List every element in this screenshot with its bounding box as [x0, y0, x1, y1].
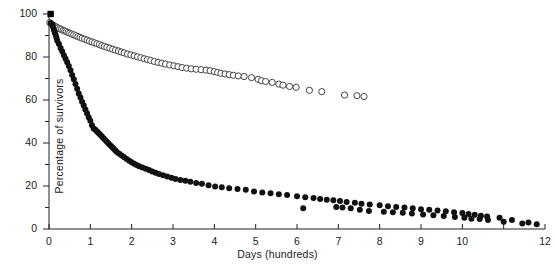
data-point-filled: [300, 205, 306, 211]
data-point-open: [269, 79, 275, 85]
data-point-filled: [441, 213, 447, 219]
data-point-filled: [348, 205, 354, 211]
data-point-filled: [259, 189, 265, 195]
data-point-filled: [302, 194, 308, 200]
x-tick-label: 2: [122, 235, 142, 247]
y-tick-label: 0: [11, 222, 37, 234]
data-point-filled: [358, 201, 364, 207]
data-point-filled: [212, 183, 218, 189]
data-point-filled: [251, 189, 257, 195]
data-point-filled: [435, 208, 441, 214]
data-point-filled: [330, 197, 336, 203]
data-point-filled: [393, 204, 399, 210]
data-point-filled: [352, 200, 358, 206]
data-point-open: [306, 87, 312, 93]
data-point-filled: [317, 196, 323, 202]
data-point-open: [293, 84, 299, 90]
data-point-open: [354, 93, 360, 99]
data-point-filled: [400, 210, 406, 216]
data-point-filled: [461, 215, 467, 221]
data-point-filled: [333, 204, 339, 210]
x-tick-label: 5: [246, 235, 266, 247]
data-point-filled: [477, 216, 483, 222]
x-tick-label: 4: [204, 235, 224, 247]
x-tick-label: 6: [287, 235, 307, 247]
data-point-open: [248, 75, 254, 81]
data-point-filled: [401, 205, 407, 211]
data-point-filled: [534, 221, 540, 227]
data-point-filled: [381, 209, 387, 215]
data-point-filled: [226, 185, 232, 191]
data-point-filled: [390, 209, 396, 215]
data-point-filled: [324, 197, 330, 203]
data-point-open: [341, 92, 347, 98]
data-point-filled: [219, 184, 225, 190]
data-point-filled: [468, 216, 474, 222]
data-point-filled: [206, 182, 212, 188]
y-tick-label: 40: [11, 136, 37, 148]
data-point-open: [280, 82, 286, 88]
data-point-filled: [377, 202, 383, 208]
data-point-filled: [268, 190, 274, 196]
data-point-filled: [426, 207, 432, 213]
y-tick-label: 20: [11, 179, 37, 191]
data-point-filled: [284, 192, 290, 198]
data-point-filled: [525, 220, 531, 226]
x-tick-label: 0: [39, 235, 59, 247]
data-point-filled: [418, 206, 424, 212]
data-point-filled: [367, 201, 373, 207]
data-point-open: [235, 73, 241, 79]
x-tick-label: 10: [452, 235, 472, 247]
data-point-filled: [501, 219, 507, 225]
data-point-filled: [339, 205, 345, 211]
data-point-filled: [276, 191, 282, 197]
data-point-filled: [337, 198, 343, 204]
data-point-filled: [234, 186, 240, 192]
data-point-filled: [294, 193, 300, 199]
data-point-filled: [357, 207, 363, 213]
data-point-filled: [452, 214, 458, 220]
x-tick-label: 1: [80, 235, 100, 247]
survival-curve-figure: Percentage of survivors Days (hundreds) …: [0, 0, 555, 271]
data-point-filled: [409, 211, 415, 217]
plot-area: [0, 0, 555, 271]
data-point-open: [319, 89, 325, 95]
data-point-filled: [519, 220, 525, 226]
data-point-filled: [410, 205, 416, 211]
x-tick-label: 8: [370, 235, 390, 247]
x-tick-label: 12: [535, 235, 555, 247]
data-point-filled: [311, 195, 317, 201]
y-tick-label: 100: [11, 7, 37, 19]
data-point-open: [361, 93, 367, 99]
data-point-filled: [187, 179, 193, 185]
data-point-filled: [344, 199, 350, 205]
x-tick-label: 9: [411, 235, 431, 247]
data-point-square: [47, 11, 53, 17]
x-tick-label: 3: [163, 235, 183, 247]
data-point-open: [241, 73, 247, 79]
data-point-filled: [243, 187, 249, 193]
y-tick-label: 80: [11, 50, 37, 62]
data-point-filled: [430, 212, 436, 218]
data-point-filled: [199, 181, 205, 187]
data-point-filled: [509, 217, 515, 223]
y-tick-label: 60: [11, 93, 37, 105]
data-point-filled: [485, 217, 491, 223]
data-point-filled: [193, 180, 199, 186]
data-point-filled: [420, 211, 426, 217]
data-point-filled: [385, 203, 391, 209]
data-point-filled: [366, 208, 372, 214]
data-point-open: [286, 83, 292, 89]
x-tick-label: 7: [328, 235, 348, 247]
data-point-open: [262, 78, 268, 84]
